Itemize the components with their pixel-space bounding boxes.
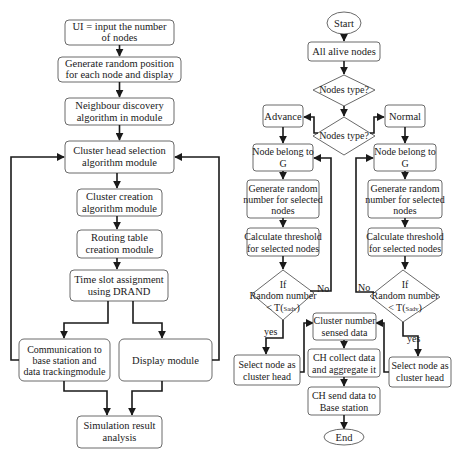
simulation-result-box: Simulation result analysis (77, 416, 162, 448)
box-text: sensed data (322, 327, 368, 338)
box-text: Node belong to (252, 146, 314, 157)
decision-text: Nodes type? (319, 130, 369, 141)
left-generate-random-box: Generate random number for selected node… (243, 180, 322, 218)
box-text: G (401, 158, 408, 169)
communication-box: Communication to base station and data t… (19, 339, 110, 381)
box-text: using DRAND (88, 286, 151, 297)
box-text: Routing table (91, 232, 148, 243)
ch-collect-box: CH collect data and aggregate it (308, 349, 380, 377)
nodes-type-decision-1: Nodes type? (313, 75, 375, 106)
left-calculate-threshold-box: Calculate threshold for selected nodes (244, 228, 321, 256)
arrow (304, 117, 318, 133)
box-text: and aggregate it (312, 364, 376, 375)
box-text: Time slot assignment (74, 274, 164, 285)
ui-input-box: UI = input the number of nodes (65, 20, 174, 45)
box-text: for selected nodes (369, 243, 441, 254)
box-text: Calculate threshold (366, 231, 443, 242)
advance-box: Advance (263, 105, 303, 127)
normal-box: Normal (385, 105, 425, 127)
no-label: No (317, 283, 329, 294)
box-text: analysis (103, 432, 137, 443)
box-text: All alive nodes (312, 46, 376, 57)
decision-text: Random number (372, 290, 440, 301)
right-flowchart: Start All alive nodes Nodes type? Nodes … (234, 12, 451, 445)
right-generate-random-box: Generate random number for selected node… (365, 180, 444, 218)
arrow (132, 381, 162, 415)
box-text: Generate random (248, 183, 317, 194)
left-node-belong-box: Node belong to G (252, 144, 314, 171)
box-text: Cluster number (314, 315, 377, 326)
box-text: number for selected (243, 194, 322, 205)
box-text: Generate random position (65, 58, 175, 69)
cluster-creation-box: Cluster creation algorithm module (77, 189, 162, 216)
box-text: Select node as (391, 360, 448, 371)
box-text: creation module (86, 244, 154, 255)
left-flowchart: UI = input the number of nodes Generate … (11, 20, 219, 448)
start-text: Start (334, 18, 354, 29)
box-text: base station and (33, 355, 97, 366)
display-module-box: Display module (119, 339, 212, 381)
yes-label: yes (264, 326, 277, 337)
cluster-head-selection-box: Cluster head selection algorithm module (65, 141, 174, 173)
no-label: No (358, 282, 370, 293)
decision-text: Random number (250, 290, 318, 301)
box-text: of nodes (102, 32, 138, 43)
nodes-type-decision-2: Nodes type? (313, 117, 375, 155)
left-random-decision: If Random number < T(Sadv) (250, 270, 318, 320)
ch-send-box: CH send data to Base station (308, 387, 380, 415)
end-terminal: End (324, 429, 364, 445)
box-text: algorithm module (82, 203, 157, 214)
right-node-belong-box: Node belong to G (374, 144, 436, 171)
box-text: Advance (264, 111, 302, 122)
left-select-node-box: Select node as cluster head (234, 355, 300, 385)
right-select-node-box: Select node as cluster head (389, 357, 451, 387)
decision-text: If (280, 279, 287, 290)
arrow (64, 301, 108, 338)
box-text: nodes (271, 205, 294, 216)
box-text: cluster head (243, 371, 291, 382)
box-text: Base station (320, 402, 369, 413)
box-text: Communication to (27, 344, 102, 355)
box-text: cluster head (396, 372, 444, 383)
right-calculate-threshold-box: Calculate threshold for selected nodes (366, 228, 443, 256)
box-text: Simulation result (83, 420, 155, 431)
box-text: for selected nodes (247, 243, 319, 254)
no-loop-arrow (356, 158, 374, 292)
time-slot-box: Time slot assignment using DRAND (70, 270, 168, 301)
end-text: End (336, 432, 354, 443)
box-text: Normal (389, 111, 421, 122)
box-text: Node belong to (374, 146, 436, 157)
box-text: G (279, 158, 286, 169)
all-alive-nodes-box: All alive nodes (308, 42, 380, 61)
cluster-number-box: Cluster number sensed data (313, 313, 376, 340)
generate-position-box: Generate random position for each node a… (58, 57, 181, 82)
box-text: nodes (393, 205, 416, 216)
routing-table-box: Routing table creation module (77, 230, 162, 258)
box-text: for each node and display (66, 69, 175, 80)
arrow (64, 381, 107, 415)
box-text: Cluster head selection (73, 145, 166, 156)
arrow (370, 117, 384, 133)
right-random-decision: If Random number < T(Sadv) (370, 270, 440, 322)
yes-label: yes (407, 333, 420, 344)
box-text: Generate random (370, 183, 439, 194)
box-text: number for selected (365, 194, 444, 205)
box-text: UI = input the number (73, 21, 167, 32)
box-text: data trackingmodule (24, 366, 106, 377)
feedback-arrow-left (11, 157, 64, 360)
no-loop-arrow (310, 158, 331, 291)
arrow (133, 301, 162, 338)
box-text: CH send data to (312, 390, 376, 401)
box-text: Cluster creation (86, 191, 154, 202)
box-text: Neighbour discovery (75, 100, 164, 111)
box-text: Select node as (238, 359, 295, 370)
neighbour-discovery-box: Neighbour discovery algorithm in module (65, 98, 174, 125)
box-text: algorithm in module (77, 112, 163, 123)
box-text: CH collect data (313, 352, 376, 363)
decision-text: Nodes type? (319, 84, 369, 95)
flowchart-canvas: UI = input the number of nodes Generate … (0, 0, 454, 461)
box-text: algorithm module (82, 157, 157, 168)
feedback-arrow-right (175, 157, 219, 360)
start-terminal: Start (327, 12, 361, 34)
decision-text: If (402, 279, 409, 290)
